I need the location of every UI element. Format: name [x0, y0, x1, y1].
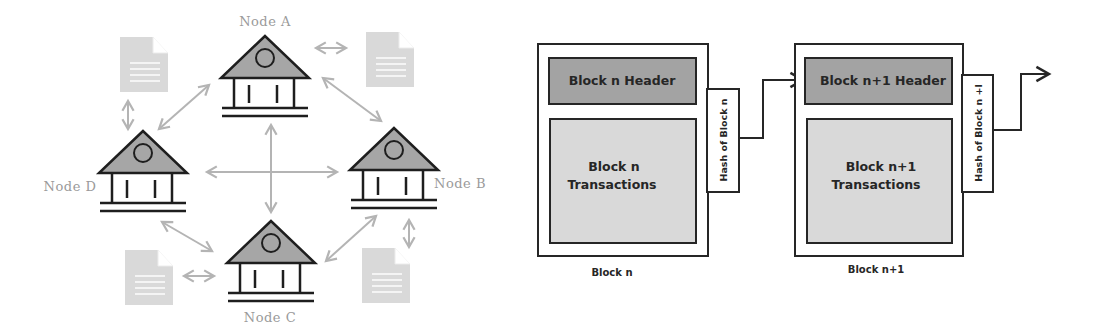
block-n1-hash-label: Hash of Block n +l	[973, 84, 984, 182]
link-d-c-arrow	[162, 222, 212, 251]
block-n-caption: Block n	[591, 267, 632, 278]
document-icon	[366, 32, 414, 87]
node-d-label: Node D	[44, 179, 97, 194]
blockchain-diagram: Block n Header Block n Transactions Hash…	[538, 44, 1049, 278]
bank-building-icon	[99, 131, 187, 211]
block-n-transactions-line2: Transactions	[567, 177, 656, 192]
node-a-label: Node A	[239, 14, 291, 29]
block-n-header-label: Block n Header	[569, 73, 677, 88]
document-icon	[362, 248, 410, 303]
block-n-hash-label: Hash of Block n	[718, 98, 729, 181]
block-n1-transactions-line1: Block n+1	[846, 159, 917, 174]
node-d: Node D	[44, 131, 187, 211]
node-b-label: Node B	[434, 176, 486, 191]
block-n1-transactions-line2: Transactions	[831, 177, 920, 192]
block-n-transactions-line1: Block n	[588, 159, 639, 174]
next-block-arrow	[993, 74, 1049, 130]
bank-building-icon	[227, 221, 315, 301]
network-diagram: Node A Node B Node C Node D	[44, 14, 486, 325]
node-a: Node A	[221, 14, 309, 116]
block-n: Block n Header Block n Transactions Hash…	[538, 44, 739, 278]
bank-building-icon	[221, 36, 309, 116]
diagram-canvas: Node A Node B Node C Node D Block n Head…	[0, 0, 1094, 332]
document-icon	[125, 250, 173, 305]
bank-building-icon	[350, 128, 438, 208]
document-icon	[120, 37, 168, 92]
block-n1-header-label: Block n+1 Header	[820, 73, 947, 88]
block-n-plus-1: Block n+1 Header Block n+1 Transactions …	[795, 44, 993, 275]
node-c: Node C	[227, 221, 315, 325]
node-c-label: Node C	[244, 310, 296, 325]
block-n1-caption: Block n+1	[848, 264, 904, 275]
node-b: Node B	[350, 128, 486, 208]
hash-link-arrow	[739, 80, 803, 138]
